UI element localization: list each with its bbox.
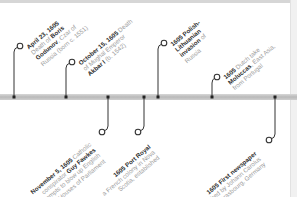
event-marker-icon: [266, 137, 272, 143]
event-marker-icon: [135, 129, 141, 135]
event-marker-icon: [99, 129, 105, 135]
connector-polish-lithuanian: [158, 44, 162, 97]
tick-icon: [107, 96, 110, 99]
tick-icon: [211, 96, 214, 99]
tick-icon: [157, 96, 160, 99]
event-marker-icon: [161, 40, 167, 46]
connector-dutch-moluccas: [212, 78, 215, 97]
event-marker-icon: [17, 43, 23, 49]
connector-first-newspaper: [271, 97, 275, 139]
tick-icon: [143, 96, 146, 99]
connector-november-5: [104, 97, 108, 131]
connector-october-15: [66, 63, 70, 97]
tick-icon: [13, 96, 16, 99]
event-marker-icon: [69, 59, 75, 65]
event-marker-icon: [214, 74, 220, 80]
tick-icon: [65, 96, 68, 99]
tick-icon: [274, 96, 277, 99]
connector-april-23: [14, 47, 18, 97]
connector-port-royal: [140, 97, 144, 131]
